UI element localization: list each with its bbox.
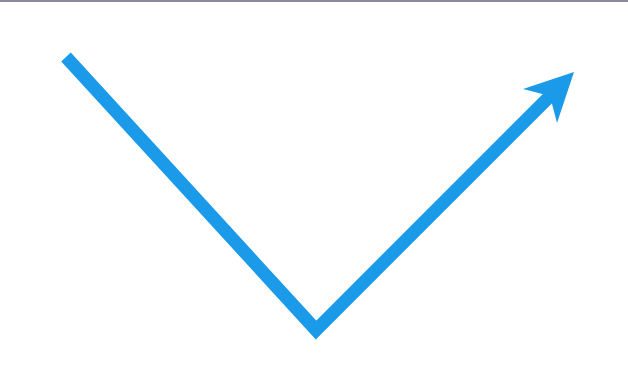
v-line-stroke — [66, 57, 550, 330]
v-arrow-figure — [0, 0, 628, 371]
